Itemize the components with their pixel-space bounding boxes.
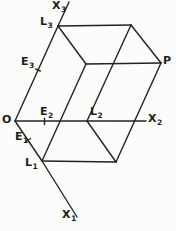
label-l3: L3 (40, 16, 53, 27)
label-p-base: P (163, 54, 171, 67)
label-l2: L2 (90, 106, 103, 117)
label-l2-subscript: 2 (98, 112, 103, 120)
figure-canvas: X3L3E3OE2L2X2PE1L1X1 (0, 0, 176, 231)
label-e2: E2 (40, 106, 53, 117)
label-l2-base: L (90, 105, 97, 118)
label-x2-subscript: 2 (157, 119, 162, 127)
label-e2-subscript: 2 (48, 112, 53, 120)
label-e2-base: E (40, 105, 48, 118)
label-e1-base: E (15, 130, 23, 143)
label-o-base: O (2, 113, 11, 126)
label-e3-subscript: 3 (29, 62, 34, 70)
label-x2-base: X (148, 112, 156, 125)
label-e1-subscript: 1 (23, 137, 28, 145)
label-o: O (2, 114, 11, 125)
label-x3-base: X (52, 0, 60, 12)
label-l3-base: L (40, 15, 47, 28)
label-l1: L1 (25, 157, 38, 168)
label-e1: E1 (15, 131, 28, 142)
label-p: P (163, 55, 171, 66)
label-l1-base: L (25, 156, 32, 169)
label-x1-subscript: 1 (71, 215, 76, 223)
label-e3-base: E (21, 55, 29, 68)
label-l3-subscript: 3 (48, 22, 53, 30)
label-x3: X3 (52, 0, 66, 11)
label-l1-subscript: 1 (33, 163, 38, 171)
label-e3: E3 (21, 56, 34, 67)
label-x3-subscript: 3 (61, 6, 66, 14)
label-x2: X2 (148, 113, 162, 124)
label-x1-base: X (62, 208, 70, 221)
label-x1: X1 (62, 209, 76, 220)
diagram-labels: X3L3E3OE2L2X2PE1L1X1 (0, 0, 176, 231)
